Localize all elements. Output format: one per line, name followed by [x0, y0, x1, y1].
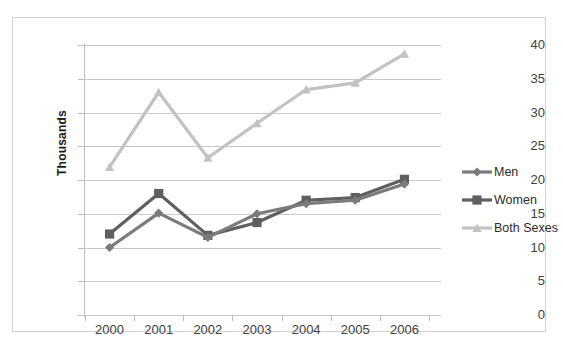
series-both-sexes: [105, 49, 409, 171]
legend-item-men[interactable]: Men: [461, 158, 563, 186]
square-marker: [472, 195, 481, 204]
top-cutoff-text: [0, 0, 558, 10]
series-line: [110, 54, 405, 167]
square-marker: [154, 189, 163, 198]
legend-item-women[interactable]: Women: [461, 186, 563, 214]
top-cutoff-text-content: [2, 0, 7, 4]
square-marker: [461, 193, 493, 207]
series-women: [105, 175, 409, 240]
chart-frame: Thousands 4035302520151050 2000200120022…: [12, 17, 546, 332]
diamond-marker: [461, 165, 493, 179]
legend-item-label: Women: [493, 193, 537, 207]
legend-item-both-sexes[interactable]: Both Sexes: [461, 214, 563, 242]
series-men: [105, 179, 409, 252]
diamond-marker: [472, 167, 481, 176]
legend-item-label: Men: [493, 165, 518, 179]
square-marker: [252, 218, 261, 227]
chart-legend: MenWomenBoth Sexes: [461, 158, 563, 242]
triangle-marker: [400, 49, 409, 58]
legend-item-label: Both Sexes: [493, 221, 558, 235]
triangle-marker: [154, 88, 163, 97]
square-marker: [105, 229, 114, 238]
triangle-marker: [461, 221, 493, 235]
